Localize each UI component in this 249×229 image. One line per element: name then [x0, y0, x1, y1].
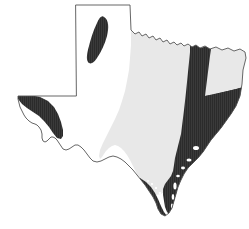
map-canvas [0, 0, 249, 229]
texas-region-map [0, 0, 249, 229]
